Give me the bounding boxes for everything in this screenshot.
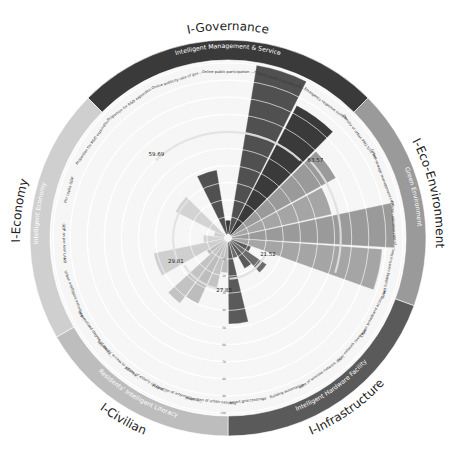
tick-label: 50	[222, 326, 226, 330]
average-value-label: 59.69	[149, 151, 165, 157]
tick-label: 70	[222, 360, 226, 364]
tick-label: 20	[222, 274, 226, 278]
tick-label: 80	[222, 377, 226, 381]
tick-label: 60	[222, 343, 226, 347]
indicator-label: Online public participation …	[202, 70, 255, 74]
tick-label: 40	[222, 308, 226, 312]
tick-label: 100	[220, 411, 226, 415]
average-value-label: 27.85	[216, 287, 232, 293]
average-value-label: 63.57	[307, 157, 323, 163]
average-value-label: 29.81	[168, 258, 184, 264]
polar-bar-chart: Proportion for R&D expenditu…Online publ…	[0, 0, 456, 452]
chart-canvas: Proportion for R&D expenditu…Online publ…	[0, 0, 456, 452]
dimension-label: I-Governance	[186, 19, 270, 37]
tick-label: 10	[222, 257, 226, 261]
dimension-label: I-Economy	[9, 177, 31, 243]
average-value-label: 21.52	[260, 251, 276, 257]
tick-label: 90	[222, 394, 226, 398]
